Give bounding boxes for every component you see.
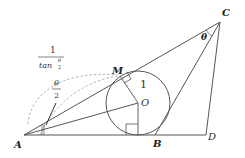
label-O: O [141, 97, 149, 108]
frac-den-sup-den: 2 [58, 64, 61, 70]
label-theta: θ [201, 32, 207, 42]
frac-numerator: 1 [50, 45, 56, 55]
half-theta-num: θ [54, 79, 59, 88]
pointer-line [46, 103, 56, 125]
label-A: A [13, 139, 22, 150]
geometry-diagram: A B C D M O θ 1 θ 2 1 tan θ 2 [0, 0, 245, 158]
label-C: C [222, 7, 230, 18]
frac-den-sup-num: θ [58, 57, 61, 63]
frac-den-tan: tan [39, 61, 52, 70]
line-CD [206, 22, 220, 135]
label-D: D [207, 131, 216, 142]
dashed-arc-upper [28, 74, 118, 124]
label-B: B [152, 138, 161, 149]
line-BC [155, 22, 220, 135]
label-radius-1: 1 [140, 78, 147, 91]
label-M: M [111, 65, 124, 76]
half-theta-den: 2 [54, 91, 59, 100]
